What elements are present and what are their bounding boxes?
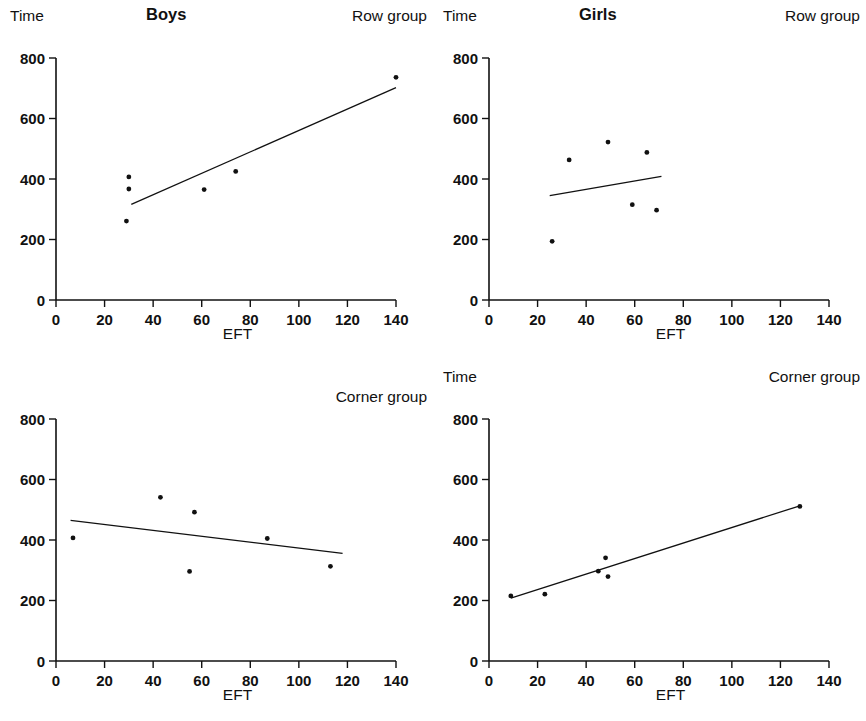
data-point [71,535,76,540]
y-tick-label: 600 [20,471,45,488]
y-tick-label: 200 [453,592,478,609]
panel-group-annotation: Row group [785,8,860,24]
data-point [596,569,601,574]
data-point [603,555,608,560]
data-point [233,169,238,174]
y-axis-label: Time [10,8,44,24]
y-tick-label: 400 [20,171,45,188]
y-tick-label: 400 [453,532,478,549]
y-tick-label: 0 [37,653,45,670]
data-point [265,536,270,541]
y-tick-label: 600 [453,110,478,127]
y-tick-label: 400 [453,171,478,188]
data-point [192,510,197,515]
panel-group-annotation: Corner group [769,369,860,385]
y-tick-label: 800 [20,411,45,428]
y-tick-label: 800 [453,50,478,67]
panel-group-annotation: Corner group [336,389,427,405]
data-point [394,75,399,80]
x-axis-label: EFT [433,687,866,703]
data-point [654,208,659,213]
panel-title: Girls [579,6,617,23]
data-point [644,150,649,155]
plot-area-boys-row: 0200400600800020406080100120140 [0,0,433,360]
data-point [126,174,131,179]
data-point [550,239,555,244]
x-axis-label: EFT [433,326,866,342]
data-point [126,187,131,192]
regression-line [71,520,343,553]
data-point [797,504,802,509]
panel-girls-corner: 0200400600800020406080100120140TimeCorne… [433,361,866,721]
panel-boys-row: 0200400600800020406080100120140TimeBoysR… [0,0,433,360]
y-axis-label: Time [443,369,477,385]
panel-title: Boys [146,6,186,23]
y-tick-label: 200 [20,231,45,248]
y-tick-label: 600 [20,110,45,127]
data-point [124,219,129,224]
data-point [202,187,207,192]
data-point [508,594,513,599]
data-point [606,574,611,579]
y-axis-label: Time [443,8,477,24]
x-axis-label: EFT [0,687,433,703]
data-point [187,569,192,574]
y-tick-label: 400 [20,532,45,549]
y-tick-label: 0 [470,292,478,309]
data-point [158,495,163,500]
data-point [542,592,547,597]
y-tick-label: 200 [453,231,478,248]
y-tick-label: 0 [37,292,45,309]
regression-line [511,506,800,598]
y-tick-label: 200 [20,592,45,609]
regression-line [550,176,662,195]
data-point [567,158,572,163]
data-point [606,140,611,145]
panel-group-annotation: Row group [352,8,427,24]
regression-line [131,88,396,205]
panel-girls-row: 0200400600800020406080100120140TimeGirls… [433,0,866,360]
data-point [630,202,635,207]
y-tick-label: 0 [470,653,478,670]
plot-area-boys-corner: 0200400600800020406080100120140 [0,361,433,721]
y-tick-label: 800 [20,50,45,67]
plot-area-girls-row: 0200400600800020406080100120140 [433,0,866,360]
data-point [328,564,333,569]
y-tick-label: 600 [453,471,478,488]
scatter-plot-figure: 0200400600800020406080100120140TimeBoysR… [0,0,866,721]
panel-boys-corner: 0200400600800020406080100120140Corner gr… [0,361,433,721]
x-axis-label: EFT [0,326,433,342]
y-tick-label: 800 [453,411,478,428]
plot-area-girls-corner: 0200400600800020406080100120140 [433,361,866,721]
